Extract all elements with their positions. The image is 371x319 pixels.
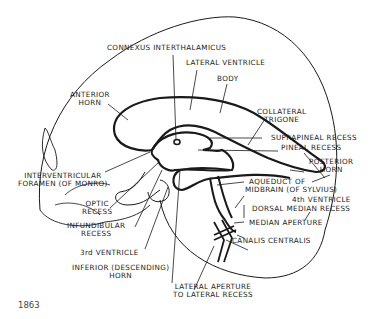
label-interventricular-foramen: INTERVENTRICULAR FORAMEN (OF MONRO) bbox=[18, 172, 108, 189]
label-posterior-horn: POSTERIOR HORN bbox=[309, 158, 353, 175]
label-infundibular-recess: INFUNDIBULAR RECESS bbox=[67, 222, 125, 239]
label-foramen: FORAMEN (OF MONRO) bbox=[18, 180, 108, 188]
label-lateral-aperture-line2: TO LATERAL RECESS bbox=[173, 291, 253, 299]
label-trigone: TRIGONE bbox=[257, 116, 306, 124]
label-median-aperture: MEDIAN APERTURE bbox=[249, 219, 323, 227]
connexus-interthalamicus bbox=[174, 140, 180, 145]
label-anterior-horn: ANTERIOR HORN bbox=[70, 91, 110, 108]
label-recess-optic: RECESS bbox=[82, 208, 112, 216]
label-lateral-aperture: LATERAL APERTURE TO LATERAL RECESS bbox=[173, 283, 253, 300]
label-pineal-recess: PINEAL RECESS bbox=[281, 144, 341, 152]
olfactory-loop bbox=[42, 128, 57, 170]
label-dorsal-median-recess: DORSAL MEDIAN RECESS bbox=[252, 205, 350, 213]
label-aqueduct: AQUEDUCT OF MIDBRAIN (OF SYLVIUS) bbox=[245, 178, 337, 195]
label-collateral-trigone: COLLATERAL TRIGONE bbox=[257, 108, 306, 125]
label-horn: HORN bbox=[70, 99, 110, 107]
label-aqueduct-line2: MIDBRAIN (OF SYLVIUS) bbox=[245, 186, 337, 194]
label-inferior-horn: INFERIOR (DESCENDING) HORN bbox=[72, 264, 169, 281]
label-horn-inferior: HORN bbox=[72, 272, 169, 280]
label-recess-infundibular: RECESS bbox=[67, 230, 125, 238]
label-body: BODY bbox=[217, 75, 238, 83]
label-horn-posterior: HORN bbox=[309, 166, 353, 174]
label-third-ventricle: 3rd VENTRICLE bbox=[80, 249, 139, 257]
label-lateral-ventricle: LATERAL VENTRICLE bbox=[186, 59, 265, 67]
label-optic-recess: OPTIC RECESS bbox=[82, 200, 112, 217]
label-canalis-centralis: CANALIS CENTRALIS bbox=[232, 237, 311, 245]
label-connexus-interthalamicus: CONNEXUS INTERTHALAMICUS bbox=[107, 44, 226, 52]
label-suprapineal-recess: SUPRAPINEAL RECESS bbox=[271, 134, 357, 142]
figure-number: 1863 bbox=[18, 300, 40, 310]
